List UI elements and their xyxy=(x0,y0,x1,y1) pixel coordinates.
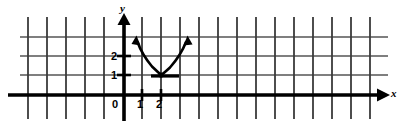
x-tick-label-2: 2 xyxy=(156,99,162,110)
parabola-curve xyxy=(132,36,193,76)
graph-figure: y x 0 1 2 1 2 xyxy=(0,0,405,125)
coordinate-plane-graphic xyxy=(0,0,405,125)
y-axis xyxy=(118,13,131,121)
grid-lines xyxy=(20,17,388,119)
origin-tick-label: 0 xyxy=(112,99,118,110)
y-tick-label-2: 2 xyxy=(111,51,117,62)
x-axis-label: x xyxy=(391,88,397,99)
y-axis-label: y xyxy=(120,3,125,14)
vertex-point xyxy=(158,72,163,77)
x-tick-label-1: 1 xyxy=(137,99,143,110)
y-tick-label-1: 1 xyxy=(111,70,117,81)
vertical-grid-lines xyxy=(28,17,370,119)
